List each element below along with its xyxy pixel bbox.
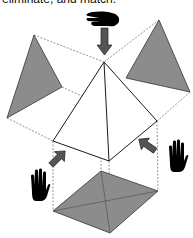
up-right-arrow-icon [46, 146, 70, 170]
right-hand-icon [169, 140, 188, 173]
right-projection-triangle [126, 20, 190, 92]
left-hand-icon [31, 169, 50, 202]
top-hand-icon [86, 12, 119, 27]
down-arrow-icon [97, 28, 112, 55]
pyramid-projection-diagram [0, 0, 193, 238]
bottom-projection-square [53, 171, 158, 233]
left-projection-triangle [7, 35, 62, 118]
